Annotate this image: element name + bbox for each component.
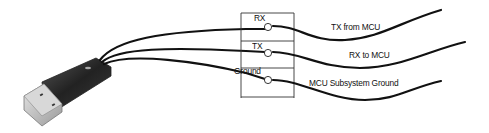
wire-label-rx-to-mcu: RX to MCU [349,49,390,60]
usb-dongle-icon [24,58,111,126]
pin-label-ground: Ground [234,65,261,76]
wire-label-tx-from-mcu: TX from MCU [331,21,380,32]
pin-tx-terminal-icon [264,49,271,56]
pin-rx-terminal-icon [264,23,271,30]
pin-ground-terminal-icon [264,76,271,83]
pin-label-rx: RX [254,12,265,23]
pin-label-tx: TX [252,40,262,51]
wire-label-mcu-ground: MCU Subsystem Ground [309,77,398,88]
usb-serial-wiring-diagram: RX TX Ground TX from MCU RX to MCU MCU S… [0,0,489,133]
